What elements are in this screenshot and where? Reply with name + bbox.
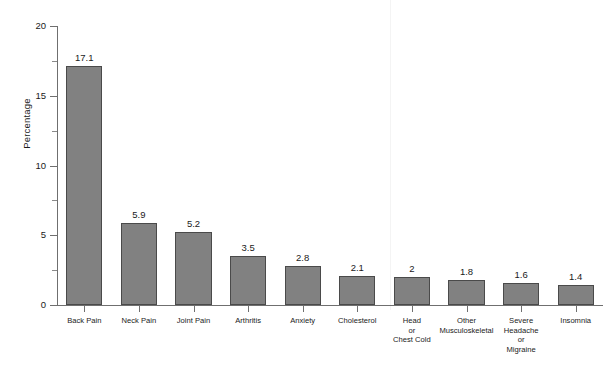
- x-axis-category-label-line: Headache: [494, 326, 549, 336]
- bar: [339, 276, 375, 305]
- x-axis-category-label-line: or: [494, 335, 549, 345]
- bar-value-label: 1.8: [437, 267, 497, 277]
- x-axis-category-label: Back Pain: [57, 316, 112, 326]
- x-tick: [521, 306, 522, 312]
- bar-value-label: 5.9: [109, 210, 169, 220]
- x-axis-category-label: Insomnia: [548, 316, 603, 326]
- x-axis-category-label-line: Anxiety: [275, 316, 330, 326]
- bar: [175, 232, 211, 305]
- bar-value-label: 5.2: [164, 219, 224, 229]
- x-tick: [357, 306, 358, 312]
- bar-value-label: 3.5: [218, 243, 278, 253]
- x-tick: [139, 306, 140, 312]
- x-axis-category-label-line: or: [385, 326, 440, 336]
- y-tick-label: 10: [0, 161, 46, 171]
- x-tick: [194, 306, 195, 312]
- bar: [448, 280, 484, 305]
- bar-value-label: 17.1: [54, 53, 114, 63]
- y-tick-label: 15: [0, 91, 46, 101]
- x-axis-category-label: Cholesterol: [330, 316, 385, 326]
- y-tick-major: [50, 235, 57, 236]
- y-tick-major: [50, 96, 57, 97]
- bar: [285, 266, 321, 305]
- x-axis-category-label-line: Neck Pain: [112, 316, 167, 326]
- x-axis-category-label: SevereHeadacheorMigraine: [494, 316, 549, 354]
- x-axis-category-label-line: Head: [385, 316, 440, 326]
- y-tick-minor: [52, 200, 57, 201]
- bar-value-label: 2: [382, 264, 442, 274]
- y-tick-minor: [52, 131, 57, 132]
- x-axis-category-label: OtherMusculoskeletal: [439, 316, 494, 335]
- x-axis-category-label-line: Joint Pain: [166, 316, 221, 326]
- x-axis-category-label: Joint Pain: [166, 316, 221, 326]
- bar-chart: Percentage 05101520 17.15.95.23.52.82.12…: [0, 0, 610, 365]
- bar: [121, 223, 157, 305]
- x-axis-category-label: Arthritis: [221, 316, 276, 326]
- x-axis-category-label-line: Chest Cold: [385, 335, 440, 345]
- bar: [66, 66, 102, 305]
- x-axis-category-label-line: Cholesterol: [330, 316, 385, 326]
- x-tick: [576, 306, 577, 312]
- x-axis-category-label: Anxiety: [275, 316, 330, 326]
- x-axis-category-label-line: Severe: [494, 316, 549, 326]
- x-axis-category-label-line: Other: [439, 316, 494, 326]
- x-axis-category-label-line: Back Pain: [57, 316, 112, 326]
- bar: [394, 277, 430, 305]
- x-tick: [84, 306, 85, 312]
- x-axis-category-label: Neck Pain: [112, 316, 167, 326]
- y-axis-line: [57, 26, 58, 306]
- y-tick-major: [50, 26, 57, 27]
- x-tick: [248, 306, 249, 312]
- bar-value-label: 1.6: [491, 270, 551, 280]
- y-tick-minor: [52, 270, 57, 271]
- y-tick-label: 0: [0, 300, 46, 310]
- x-axis-category-label-line: Insomnia: [548, 316, 603, 326]
- bar: [503, 283, 539, 305]
- x-axis-category-label-line: Arthritis: [221, 316, 276, 326]
- bar-value-label: 2.8: [273, 253, 333, 263]
- y-tick-major: [50, 305, 57, 306]
- x-axis-category-label-line: Musculoskeletal: [439, 326, 494, 336]
- y-tick-label: 5: [0, 230, 46, 240]
- y-tick-label: 20: [0, 21, 46, 31]
- x-axis-category-label-line: Migraine: [494, 345, 549, 355]
- bar: [230, 256, 266, 305]
- x-tick: [412, 306, 413, 312]
- bar-value-label: 1.4: [546, 272, 606, 282]
- x-axis-category-label: HeadorChest Cold: [385, 316, 440, 345]
- bar-value-label: 2.1: [327, 263, 387, 273]
- bar: [558, 285, 594, 305]
- x-tick: [303, 306, 304, 312]
- y-tick-major: [50, 166, 57, 167]
- x-tick: [467, 306, 468, 312]
